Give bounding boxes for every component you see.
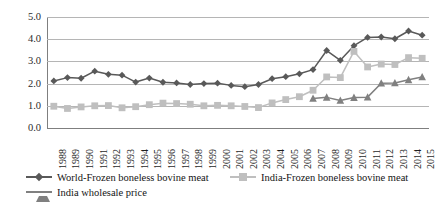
series-marker-1 — [378, 61, 385, 68]
series-marker-0 — [146, 75, 153, 82]
series-marker-0 — [419, 32, 426, 39]
x-tick-label: 2014 — [413, 149, 423, 169]
legend-label: India wholesale price — [57, 187, 147, 198]
series-marker-1 — [214, 102, 221, 109]
series-marker-1 — [78, 104, 85, 111]
x-tick-label: 2009 — [344, 149, 354, 169]
x-tick-label: 2010 — [358, 149, 368, 169]
legend-label: World-Frozen boneless bovine meat — [57, 172, 209, 183]
series-marker-1 — [91, 102, 98, 109]
series-marker-0 — [50, 78, 57, 85]
series-marker-0 — [405, 28, 412, 35]
x-tick-label: 1991 — [99, 149, 109, 169]
legend-square-icon — [230, 171, 256, 183]
x-tick-label: 2013 — [399, 149, 409, 169]
x-tick-label: 1988 — [58, 149, 68, 169]
x-tick-label: 1996 — [167, 149, 177, 169]
legend-row-bottom: India wholesale price — [26, 185, 436, 199]
x-axis-labels: 1988198919901991199219931994199519961997… — [47, 130, 429, 172]
series-marker-0 — [78, 75, 85, 82]
legend-item[interactable]: India-Frozen boneless bovine meat — [230, 170, 408, 184]
legend-item[interactable]: World-Frozen boneless bovine meat — [26, 170, 209, 184]
series-marker-1 — [173, 100, 180, 107]
y-tick-label: 0.0 — [28, 123, 41, 133]
x-tick-label: 1992 — [112, 149, 122, 169]
series-marker-1 — [282, 96, 289, 103]
series-marker-0 — [364, 34, 371, 41]
legend-triangle-icon — [26, 186, 52, 198]
y-tick-label: 1.0 — [28, 101, 41, 111]
plot-area — [47, 17, 429, 128]
x-tick-label: 2004 — [276, 149, 286, 169]
series-marker-0 — [228, 82, 235, 89]
series-marker-0 — [391, 35, 398, 42]
x-tick-label: 2011 — [372, 149, 382, 169]
x-tick-label: 2007 — [317, 149, 327, 169]
x-tick-label: 2012 — [385, 149, 395, 169]
x-tick-label: 2015 — [426, 149, 436, 169]
x-tick-label: 2008 — [331, 149, 341, 169]
series-marker-1 — [200, 102, 207, 109]
series-marker-1 — [419, 55, 426, 62]
series-marker-1 — [405, 54, 412, 61]
series-marker-0 — [119, 72, 126, 79]
series-marker-1 — [187, 101, 194, 108]
x-tick-label: 1990 — [85, 149, 95, 169]
series-marker-1 — [241, 103, 248, 110]
legend-diamond-icon — [26, 171, 52, 183]
y-tick-label: 3.0 — [28, 56, 41, 66]
y-axis-labels: 0.01.02.03.04.05.0 — [0, 0, 45, 145]
series-marker-0 — [214, 80, 221, 87]
x-tick-label: 1989 — [71, 149, 81, 169]
series-marker-0 — [105, 71, 112, 78]
y-tick-label: 5.0 — [28, 12, 41, 22]
x-tick-label: 1993 — [126, 149, 136, 169]
x-tick-label: 1999 — [208, 149, 218, 169]
chart-container: 0.01.02.03.04.05.0 198819891990199119921… — [0, 0, 438, 202]
x-tick-label: 1995 — [153, 149, 163, 169]
series-marker-1 — [337, 74, 344, 81]
series-marker-1 — [391, 61, 398, 68]
series-marker-1 — [269, 100, 276, 107]
legend-item[interactable]: India wholesale price — [26, 185, 147, 199]
x-tick-label: 1994 — [140, 149, 150, 169]
x-tick-label: 1997 — [181, 149, 191, 169]
y-tick-label: 4.0 — [28, 34, 41, 44]
series-marker-1 — [119, 104, 126, 111]
x-axis-line — [47, 128, 429, 129]
series-marker-0 — [378, 34, 385, 41]
series-marker-1 — [105, 102, 112, 109]
series-marker-0 — [255, 81, 262, 88]
series-marker-0 — [296, 70, 303, 77]
x-tick-label: 2001 — [235, 149, 245, 169]
legend-row-top: World-Frozen boneless bovine meatIndia-F… — [26, 170, 436, 184]
series-marker-1 — [310, 87, 317, 94]
x-tick-label: 2002 — [249, 149, 259, 169]
series-marker-1 — [351, 48, 358, 55]
series-marker-0 — [241, 83, 248, 90]
chart-legend: World-Frozen boneless bovine meatIndia-F… — [26, 170, 436, 200]
series-marker-1 — [255, 104, 262, 111]
series-marker-0 — [173, 80, 180, 87]
series-marker-1 — [296, 93, 303, 100]
series-marker-1 — [323, 74, 330, 81]
series-marker-1 — [132, 103, 139, 110]
series-marker-0 — [200, 80, 207, 87]
series-marker-0 — [187, 81, 194, 88]
x-tick-label: 2000 — [222, 149, 232, 169]
series-layer — [47, 17, 429, 128]
series-marker-1 — [64, 105, 71, 112]
series-marker-1 — [160, 100, 167, 107]
x-tick-label: 2006 — [303, 149, 313, 169]
series-marker-1 — [228, 102, 235, 109]
x-tick-label: 2003 — [262, 149, 272, 169]
series-marker-1 — [146, 101, 153, 108]
series-marker-0 — [64, 74, 71, 81]
x-tick-label: 1998 — [194, 149, 204, 169]
x-tick-label: 2005 — [290, 149, 300, 169]
series-marker-0 — [282, 73, 289, 80]
series-marker-1 — [364, 64, 371, 71]
series-marker-0 — [132, 79, 139, 86]
series-marker-0 — [269, 75, 276, 82]
y-tick-label: 2.0 — [28, 79, 41, 89]
